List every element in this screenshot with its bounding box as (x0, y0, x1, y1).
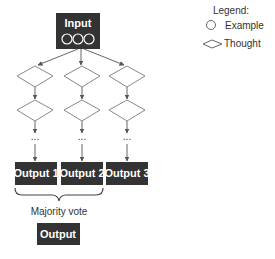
output-label: Output 3 (104, 167, 149, 179)
legend: Legend: Example Thought (203, 5, 264, 49)
input-arrows (38, 49, 124, 65)
input-node: Input (56, 13, 100, 49)
output-label: Output 1 (13, 167, 58, 179)
legend-example-label: Example (225, 20, 264, 31)
reasoning-path-2: ... (64, 66, 100, 161)
example-circle-icon (207, 21, 216, 30)
ellipsis: ... (31, 131, 39, 142)
thought-diamond-icon (203, 40, 222, 48)
thought-diamond-icon (17, 66, 53, 87)
final-output-node: Output (37, 223, 80, 245)
reasoning-path-3: ... (109, 66, 145, 161)
thought-diamond-icon (64, 100, 100, 121)
thought-diamond-icon (64, 66, 100, 87)
thought-diamond-icon (17, 100, 53, 121)
reasoning-path-1: ... (17, 66, 53, 161)
output-label: Output 2 (59, 167, 104, 179)
output-node-1: Output 1 (13, 162, 58, 185)
final-output-label: Output (40, 228, 76, 240)
output-node-2: Output 2 (59, 162, 104, 185)
thought-diamond-icon (109, 66, 145, 87)
ellipsis: ... (78, 131, 86, 142)
majority-vote-label: Majority vote (31, 206, 88, 217)
legend-title: Legend: (213, 5, 249, 16)
thought-diamond-icon (109, 100, 145, 121)
legend-thought-label: Thought (224, 38, 261, 49)
input-label: Input (65, 17, 92, 29)
ellipsis: ... (123, 131, 131, 142)
self-consistency-diagram: Input ... ... ... Output (0, 0, 275, 259)
curly-brace-icon (15, 188, 103, 201)
output-node-3: Output 3 (104, 162, 149, 185)
